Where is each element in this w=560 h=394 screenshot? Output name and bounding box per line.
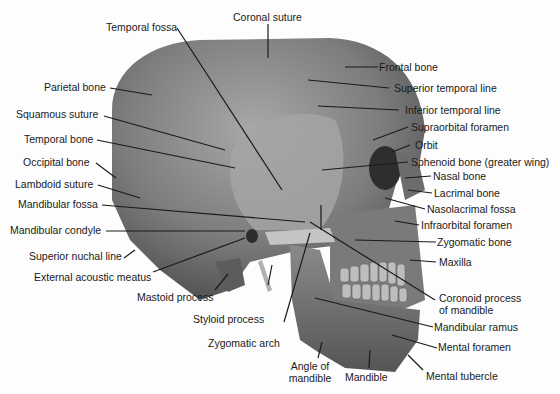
- label-mandible: Mandible: [345, 371, 388, 383]
- label-lambdoid-suture: Lambdoid suture: [15, 178, 93, 190]
- skull-diagram: Temporal fossa Coronal suture Parietal b…: [0, 0, 560, 394]
- label-superior-nuchal-line: Superior nuchal line: [29, 250, 122, 262]
- label-maxilla: Maxilla: [439, 256, 472, 268]
- label-mental-foramen: Mental foramen: [438, 341, 511, 353]
- label-mandible-angle: mandible: [283, 372, 337, 384]
- label-parietal-bone: Parietal bone: [44, 81, 106, 93]
- label-mastoid-process: Mastoid process: [137, 291, 213, 303]
- label-nasolacrimal-fossa: Nasolacrimal fossa: [427, 203, 516, 215]
- label-external-acoustic-meatus: External acoustic meatus: [34, 271, 151, 283]
- label-supraorbital-foramen: Supraorbital foramen: [411, 121, 509, 133]
- label-orbit: Orbit: [415, 139, 438, 151]
- label-sphenoid-bone: Sphenoid bone (greater wing): [411, 156, 549, 168]
- label-squamous-suture: Squamous suture: [16, 108, 98, 120]
- label-temporal-bone: Temporal bone: [24, 133, 93, 145]
- label-mandibular-ramus: Mandibular ramus: [434, 321, 518, 333]
- label-inferior-temporal-line: Inferior temporal line: [405, 104, 501, 116]
- label-nasal-bone: Nasal bone: [433, 170, 486, 182]
- label-superior-temporal-line: Superior temporal line: [394, 82, 497, 94]
- label-zygomatic-bone: Zygomatic bone: [437, 236, 512, 248]
- label-angle-of: Angle of: [285, 360, 335, 372]
- label-mental-tubercle: Mental tubercle: [426, 370, 498, 382]
- label-of-mandible: of mandible: [439, 304, 493, 316]
- label-occipital-bone: Occipital bone: [23, 156, 90, 168]
- label-mandibular-fossa: Mandibular fossa: [18, 198, 98, 210]
- ear-opening: [246, 229, 258, 243]
- label-infraorbital-foramen: Infraorbital foramen: [421, 219, 512, 231]
- label-frontal-bone: Frontal bone: [379, 61, 438, 73]
- label-styloid-process: Styloid process: [193, 313, 264, 325]
- label-coronoid-process: Coronoid process: [439, 292, 521, 304]
- label-lacrimal-bone: Lacrimal bone: [434, 187, 500, 199]
- label-zygomatic-arch: Zygomatic arch: [208, 337, 280, 349]
- label-temporal-fossa: Temporal fossa: [106, 21, 177, 33]
- label-mandibular-condyle: Mandibular condyle: [10, 224, 101, 236]
- label-coronal-suture: Coronal suture: [233, 11, 302, 23]
